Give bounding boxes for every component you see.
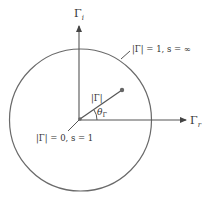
origin-label: |Γ| = 0, s = 1 <box>36 133 93 144</box>
circle-label-leader <box>121 51 130 59</box>
imag-axis-label: Γi <box>74 7 84 22</box>
origin-label-leader <box>68 120 79 131</box>
gamma-point <box>120 88 124 92</box>
gamma-plane-diagram: Γi Γr |Γ| = 1, s = ∞ |Γ| = 0, s = 1 |Γ| … <box>0 0 209 202</box>
vector-magnitude-label: |Γ| <box>91 93 103 104</box>
angle-label: θΓ <box>97 107 107 119</box>
real-axis-label: Γr <box>190 114 202 129</box>
diagram-canvas: Γi Γr |Γ| = 1, s = ∞ |Γ| = 0, s = 1 |Γ| … <box>0 0 209 202</box>
circle-label: |Γ| = 1, s = ∞ <box>132 44 191 55</box>
